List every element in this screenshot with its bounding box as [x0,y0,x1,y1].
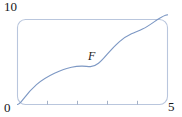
curve-F-label: F [88,50,95,62]
y-axis-max-label: 10 [4,0,17,13]
cdf-figure: 10 0 5 F [0,0,182,117]
x-axis-max-label: 5 [168,100,175,113]
y-axis-min-label: 0 [4,101,11,114]
